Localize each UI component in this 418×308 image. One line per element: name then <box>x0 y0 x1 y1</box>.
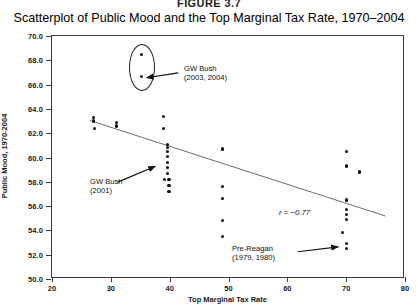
y-tick-mark <box>46 206 51 207</box>
figure-title: Scatterplot of Public Mood and the Top M… <box>0 11 418 25</box>
x-tick-mark <box>346 277 347 282</box>
data-point <box>166 161 169 164</box>
y-tick-mark <box>46 182 51 183</box>
figure-number: FIGURE 3.7 <box>0 0 418 8</box>
data-point <box>92 119 95 122</box>
x-tick-mark <box>170 277 171 282</box>
y-tick-label: 60.0 <box>28 153 43 162</box>
y-tick-mark <box>46 133 51 134</box>
data-point <box>345 213 348 216</box>
y-tick-label: 58.0 <box>28 177 43 186</box>
x-tick-mark <box>229 277 230 282</box>
data-point <box>345 198 348 201</box>
regression-line <box>52 36 403 278</box>
data-point <box>167 184 170 187</box>
correlation-label: r = −0.77 <box>279 208 310 217</box>
x-tick-mark <box>405 277 406 282</box>
data-point <box>163 178 166 181</box>
y-tick-label: 56.0 <box>28 202 43 211</box>
data-point <box>166 172 169 175</box>
x-tick-label: 60 <box>283 284 291 293</box>
y-tick-mark <box>46 36 51 37</box>
data-point <box>167 178 170 181</box>
data-point <box>166 155 169 158</box>
y-axis-title: Public Mood, 1970-2004 <box>0 114 9 199</box>
plot-inner <box>52 36 403 277</box>
x-tick-label: 40 <box>165 284 173 293</box>
data-point <box>166 166 169 169</box>
y-tick-label: 64.0 <box>28 104 43 113</box>
y-tick-mark <box>46 255 51 256</box>
x-axis-title: Top Marginal Tax Rate <box>51 295 404 304</box>
x-tick-mark <box>287 277 288 282</box>
y-tick-label: 66.0 <box>28 80 43 89</box>
y-tick-label: 62.0 <box>28 129 43 138</box>
x-tick-mark <box>52 277 53 282</box>
data-point <box>221 147 224 150</box>
data-point <box>162 115 165 118</box>
y-tick-label: 70.0 <box>28 32 43 41</box>
y-tick-mark <box>46 230 51 231</box>
y-tick-mark <box>46 109 51 110</box>
annotation-gw-bush-2003: GW Bush (2003, 2004) <box>184 64 227 83</box>
data-point <box>166 150 169 153</box>
x-tick-label: 30 <box>107 284 115 293</box>
data-point <box>162 127 165 130</box>
annotation-gw-bush-2001: GW Bush (2001) <box>90 177 123 196</box>
data-point <box>345 218 348 221</box>
data-point <box>167 190 170 193</box>
data-point <box>93 127 96 130</box>
x-tick-label: 50 <box>224 284 232 293</box>
x-tick-label: 80 <box>401 284 409 293</box>
figure-container: FIGURE 3.7 Scatterplot of Public Mood an… <box>0 0 418 308</box>
x-tick-label: 70 <box>342 284 350 293</box>
y-tick-mark <box>46 85 51 86</box>
data-point <box>345 247 348 250</box>
y-tick-mark <box>46 60 51 61</box>
data-point <box>345 164 348 167</box>
y-tick-mark <box>46 279 51 280</box>
y-tick-label: 68.0 <box>28 56 43 65</box>
annotation-pre-reagan: Pre-Reagan (1979, 1980) <box>232 244 275 263</box>
data-point <box>115 124 118 127</box>
plot-area: 50.052.054.056.058.060.062.064.066.068.0… <box>51 35 404 278</box>
x-tick-label: 20 <box>48 284 56 293</box>
y-tick-label: 52.0 <box>28 250 43 259</box>
x-tick-mark <box>111 277 112 282</box>
y-tick-label: 50.0 <box>28 275 43 284</box>
y-tick-mark <box>46 158 51 159</box>
data-point <box>358 170 361 173</box>
data-point <box>345 150 348 153</box>
y-tick-label: 54.0 <box>28 226 43 235</box>
